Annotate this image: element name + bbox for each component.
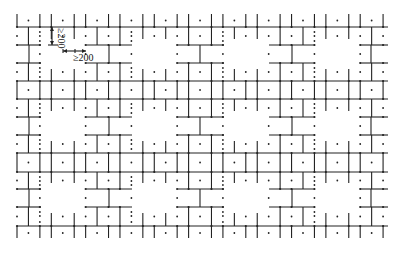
junction-node xyxy=(107,206,109,208)
horizontal-dimension: ≥200 xyxy=(63,49,94,63)
center-dot xyxy=(85,216,87,218)
junction-node xyxy=(142,152,144,154)
center-dot xyxy=(314,143,316,145)
center-dot xyxy=(199,20,201,22)
junction-node xyxy=(73,80,75,82)
junction-node xyxy=(16,134,18,136)
center-dot xyxy=(336,216,338,218)
junction-node xyxy=(313,116,315,118)
junction-node xyxy=(348,152,350,154)
junction-node xyxy=(188,98,190,100)
junction-node xyxy=(348,80,350,82)
junction-node xyxy=(279,26,281,28)
center-dot xyxy=(222,40,224,42)
junction-node xyxy=(85,188,87,190)
horizontal-dimension-label: ≥200 xyxy=(73,52,94,63)
center-dot xyxy=(39,215,41,217)
junction-node xyxy=(313,44,315,46)
junction-node xyxy=(107,225,109,227)
junction-node xyxy=(210,206,212,208)
junction-node xyxy=(222,98,224,100)
center-dot xyxy=(268,35,270,37)
center-dot xyxy=(85,107,87,109)
junction-node xyxy=(142,26,144,28)
junction-node xyxy=(16,225,18,227)
center-dot xyxy=(131,76,133,78)
junction-node xyxy=(210,98,212,100)
center-dot xyxy=(39,35,41,37)
junction-node xyxy=(188,188,190,190)
junction-node xyxy=(325,171,327,173)
junction-node xyxy=(245,26,247,28)
junction-node xyxy=(188,116,190,118)
center-dot xyxy=(233,232,235,234)
junction-node xyxy=(210,44,212,46)
center-dot xyxy=(268,216,270,218)
center-dot xyxy=(28,162,30,164)
junction-node xyxy=(107,98,109,100)
junction-node xyxy=(188,134,190,136)
junction-node xyxy=(382,26,384,28)
center-dot xyxy=(371,20,373,22)
junction-node xyxy=(359,188,361,190)
junction-node xyxy=(290,44,292,46)
junction-node xyxy=(325,26,327,28)
center-dot xyxy=(222,67,224,69)
center-dot xyxy=(131,35,133,37)
center-dot xyxy=(314,125,316,127)
junction-node xyxy=(222,225,224,227)
center-dot xyxy=(359,71,361,73)
center-dot xyxy=(85,180,87,182)
center-dot xyxy=(39,139,41,141)
center-dot xyxy=(85,125,87,127)
junction-node xyxy=(210,171,212,173)
junction-node xyxy=(325,225,327,227)
center-dot xyxy=(222,112,224,114)
center-dot xyxy=(39,40,41,42)
center-dot xyxy=(336,180,338,182)
center-dot xyxy=(336,89,338,91)
junction-node xyxy=(359,171,361,173)
center-dot xyxy=(222,148,224,150)
junction-node xyxy=(382,98,384,100)
junction-node xyxy=(348,171,350,173)
junction-node xyxy=(39,98,41,100)
center-dot xyxy=(153,143,155,145)
junction-node xyxy=(290,206,292,208)
center-dot xyxy=(268,71,270,73)
junction-node xyxy=(107,26,109,28)
vertical-dimension-label: ≥200 xyxy=(56,28,67,49)
junction-node xyxy=(210,26,212,28)
junction-node xyxy=(39,171,41,173)
center-dot xyxy=(131,112,133,114)
junction-node xyxy=(382,225,384,227)
junction-node xyxy=(39,62,41,64)
junction-node xyxy=(107,171,109,173)
center-dot xyxy=(176,143,178,145)
junction-node xyxy=(382,116,384,118)
junction-node xyxy=(222,171,224,173)
junction-node xyxy=(279,98,281,100)
junction-node xyxy=(279,225,281,227)
center-dot xyxy=(336,20,338,22)
center-dot xyxy=(336,143,338,145)
junction-node xyxy=(382,44,384,46)
junction-node xyxy=(279,152,281,154)
junction-node xyxy=(50,171,52,173)
junction-node xyxy=(119,98,121,100)
junction-node xyxy=(290,171,292,173)
center-dot xyxy=(131,148,133,150)
center-dot xyxy=(336,71,338,73)
center-dot xyxy=(131,197,133,199)
junction-node xyxy=(210,152,212,154)
center-dot xyxy=(382,35,384,37)
junction-node xyxy=(85,98,87,100)
brick-grid-diagram: ≥200 ≥200 xyxy=(0,0,401,254)
center-dot xyxy=(39,31,41,33)
center-dot xyxy=(62,216,64,218)
junction-node xyxy=(279,80,281,82)
junction-node xyxy=(188,62,190,64)
center-dot xyxy=(153,216,155,218)
center-dot xyxy=(62,71,64,73)
junction-node xyxy=(39,225,41,227)
